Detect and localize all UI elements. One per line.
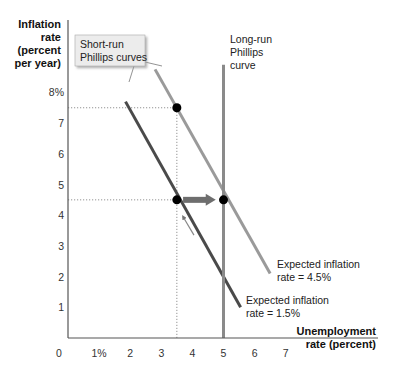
data-point [219,195,228,204]
y-axis-label-line-2: rate [41,31,61,43]
y-tick-label: 2 [58,271,64,283]
x-tick-label: 1% [92,347,107,359]
y-tick-label: 7 [58,117,64,129]
expected-4-5-label-line-1: Expected inflation [277,258,360,270]
data-points [172,103,228,204]
arrow-right-icon [206,194,216,206]
y-axis-label-line-4: per year) [15,57,62,69]
long-run-label: Long-run Phillips curve [230,33,272,71]
y-axis-ticks: 12345678% [49,86,64,313]
x-axis-label-line-1: Unemployment [297,325,377,337]
x-tick-label: 0 [56,347,62,359]
expected-1-5-label-line-1: Expected inflation [246,294,329,306]
data-point [172,195,181,204]
x-tick-label: 5 [221,347,227,359]
y-tick-label: 3 [58,240,64,252]
y-axis-label-line-1: Inflation [18,18,61,30]
short-run-curve-4-5 [155,69,270,273]
arrow-shaft [183,197,207,203]
x-tick-label: 2 [127,347,133,359]
x-axis-label-line-2: rate (percent) [306,338,377,350]
callout-short-run: Short-run Phillips curves [75,35,162,82]
x-tick-label: 6 [252,347,258,359]
x-tick-label: 4 [189,347,195,359]
y-tick-label: 8% [49,86,64,98]
expected-1-5-label: Expected inflation rate = 1.5% [246,294,329,319]
long-run-label-line-2: Phillips [230,46,263,58]
y-tick-label: 5 [58,179,64,191]
phillips-curve-chart: Inflation rate (percent per year) Unempl… [0,0,397,369]
y-tick-label: 6 [58,148,64,160]
y-axis-label-line-3: (percent [18,44,62,56]
callout-leader-line [145,62,162,66]
x-tick-label: 3 [158,347,164,359]
long-run-label-line-3: curve [230,59,256,71]
expected-4-5-label: Expected inflation rate = 4.5% [277,258,360,283]
callout-text-line-1: Short-run [80,38,124,50]
x-axis-ticks: 01%234567 [56,347,289,359]
expected-4-5-label-line-2: rate = 4.5% [277,271,331,283]
reference-lines [68,108,177,338]
y-axis-label: Inflation rate (percent per year) [15,18,62,69]
data-point [172,103,181,112]
callout-leader-line [129,66,134,82]
long-run-label-line-1: Long-run [230,33,272,45]
callout-text-line-2: Phillips curves [80,51,147,63]
y-tick-label: 1 [58,301,64,313]
y-tick-label: 4 [58,209,64,221]
expected-1-5-label-line-2: rate = 1.5% [246,307,300,319]
x-tick-label: 7 [283,347,289,359]
